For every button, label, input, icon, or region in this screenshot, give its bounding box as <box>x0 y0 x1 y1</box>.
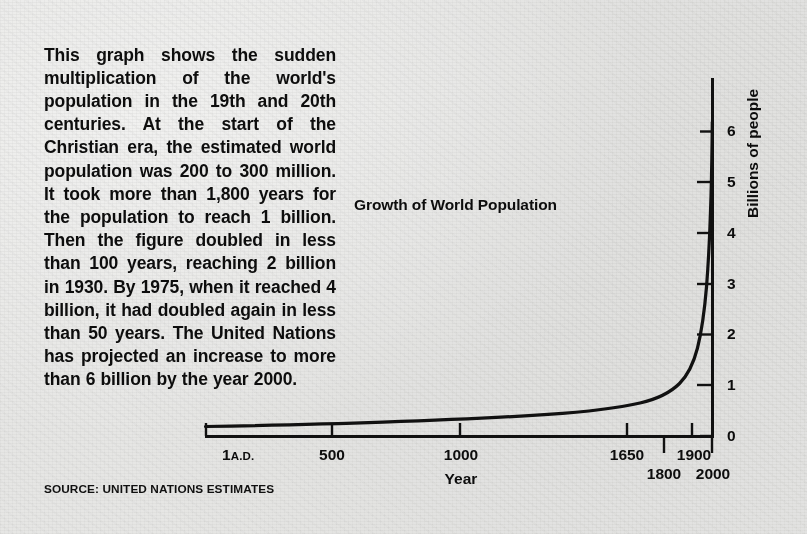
x-axis-label-2000: 2000 <box>696 465 730 483</box>
x-axis-label-1650: 1650 <box>610 446 644 464</box>
y-axis-label-4: 4 <box>727 224 736 242</box>
x-axis-label-500: 500 <box>319 446 345 464</box>
y-axis-label-0: 0 <box>727 427 736 445</box>
x-axis-label-1800: 1800 <box>647 465 681 483</box>
y-axis-title: Billions of people <box>744 18 762 218</box>
source-credit: SOURCE: UNITED NATIONS ESTIMATES <box>44 482 274 496</box>
y-axis-label-1: 1 <box>727 376 736 394</box>
x-axis-label-1ad-era: A.D. <box>231 450 255 462</box>
y-axis-label-5: 5 <box>727 173 736 191</box>
y-axis-label-6: 6 <box>727 122 736 140</box>
x-axis-label-1ad-number: 1 <box>222 446 231 463</box>
x-axis-label-1ad: 1A.D. <box>222 446 254 464</box>
y-axis-label-2: 2 <box>727 325 736 343</box>
newspaper-infographic-page: This graph shows the sudden multiplicati… <box>0 0 807 534</box>
y-axis-ticks <box>697 132 712 437</box>
y-axis-label-3: 3 <box>727 275 736 293</box>
x-axis-title: Year <box>445 470 478 488</box>
x-axis-label-1000: 1000 <box>444 446 478 464</box>
population-curve-line <box>206 122 713 427</box>
x-axis-label-1900: 1900 <box>677 446 711 464</box>
